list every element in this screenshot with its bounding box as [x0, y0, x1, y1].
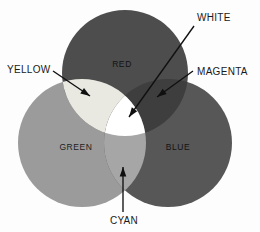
venn-diagram-canvas: RED GREEN BLUE WHITE YELLOW MAGENTA CYAN	[0, 0, 260, 232]
region-label-red: RED	[112, 59, 132, 69]
callout-label-yellow: YELLOW	[7, 64, 51, 75]
region-label-blue: BLUE	[166, 142, 191, 152]
callout-label-magenta: MAGENTA	[197, 66, 248, 77]
callout-label-cyan: CYAN	[110, 215, 138, 226]
region-label-green: GREEN	[59, 142, 92, 152]
color-mixing-diagram: RED GREEN BLUE WHITE YELLOW MAGENTA CYAN	[0, 0, 260, 232]
callout-label-white: WHITE	[197, 12, 231, 23]
